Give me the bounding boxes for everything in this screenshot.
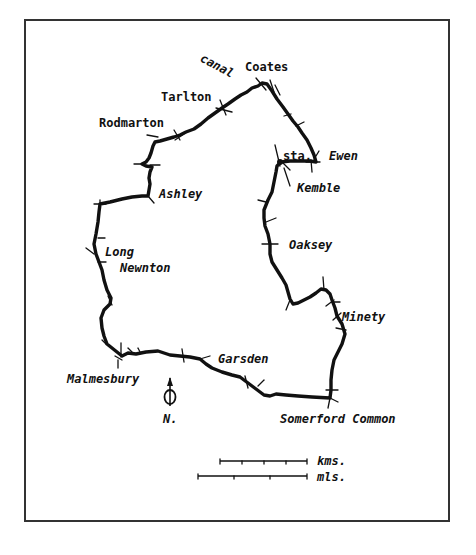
label-malmesbury: Malmesbury	[67, 373, 139, 385]
label-mls: mls.	[317, 471, 346, 483]
label-somerford-common: Somerford Common	[280, 413, 396, 425]
label-oaksey: Oaksey	[289, 239, 332, 251]
label-kemble: Kemble	[297, 182, 340, 194]
label-coates: Coates	[245, 61, 288, 73]
label-station: sta.	[283, 150, 312, 162]
label-ashley: Ashley	[159, 188, 202, 200]
label-ewen: Ewen	[329, 150, 358, 162]
label-kms: kms.	[317, 455, 346, 467]
label-long: Long	[105, 246, 134, 258]
label-rodmarton: Rodmarton	[99, 117, 164, 129]
label-newnton: Newnton	[120, 262, 171, 274]
scale-bar-mls	[198, 474, 307, 479]
label-garsden: Garsden	[218, 353, 269, 365]
label-minety: Minety	[342, 311, 385, 323]
route-map	[0, 0, 476, 555]
label-tarlton: Tarlton	[161, 91, 212, 103]
label-north: N.	[163, 413, 177, 425]
scale-bar-kms	[220, 459, 307, 464]
north-arrow-icon	[165, 377, 176, 406]
